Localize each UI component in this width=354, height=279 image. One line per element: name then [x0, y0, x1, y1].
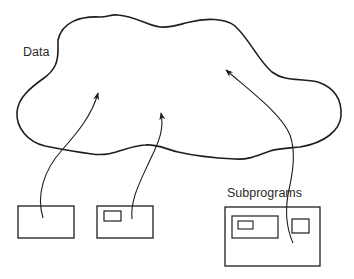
arrow-subprograms-to-data — [226, 70, 293, 243]
subprograms-nested-inner-rect — [238, 221, 253, 229]
arrow-box1-to-data — [40, 93, 98, 218]
program-box-2-inner-rect — [104, 211, 121, 221]
data-cloud-shape — [17, 15, 341, 159]
program-box-1 — [18, 206, 74, 238]
diagram-canvas: Data Subprograms — [0, 0, 354, 279]
subprograms-label: Subprograms — [227, 187, 302, 200]
diagram-svg — [0, 0, 354, 279]
arrow-box2-to-data — [132, 113, 162, 219]
subprograms-nested-box — [232, 216, 278, 238]
subprograms-small-rect — [292, 219, 309, 233]
data-label: Data — [23, 46, 49, 59]
